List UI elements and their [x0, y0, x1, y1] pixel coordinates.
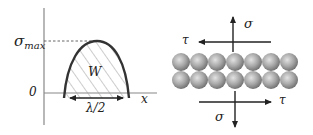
atom	[262, 53, 280, 71]
atom	[226, 53, 244, 71]
atom	[226, 71, 244, 89]
atom	[208, 71, 226, 89]
atom	[244, 53, 262, 71]
bottom-tau-label: τ	[279, 93, 286, 107]
atom	[172, 71, 190, 89]
atom	[262, 71, 280, 89]
stress-diagram: σmax 0 x W λ/2 σ τ	[0, 0, 313, 135]
origin-label: 0	[29, 85, 37, 99]
top-sigma-label: σ	[244, 16, 254, 31]
atom	[280, 53, 298, 71]
bottom-sigma-label: σ	[215, 109, 225, 124]
stress-profile-plot: σmax 0 x W λ/2	[14, 8, 157, 125]
half-wavelength-label: λ/2	[85, 101, 105, 115]
atom	[280, 71, 298, 89]
atom	[190, 53, 208, 71]
atom-rows	[172, 53, 298, 89]
atom	[190, 71, 208, 89]
atom	[172, 53, 190, 71]
atom	[208, 53, 226, 71]
area-w-label: W	[88, 64, 103, 79]
atom	[244, 71, 262, 89]
sigma-max-label: σmax	[14, 32, 46, 51]
x-axis-label: x	[141, 92, 148, 106]
top-tau-label: τ	[182, 33, 189, 47]
atomic-layer-diagram: σ τ σ τ	[172, 16, 298, 127]
